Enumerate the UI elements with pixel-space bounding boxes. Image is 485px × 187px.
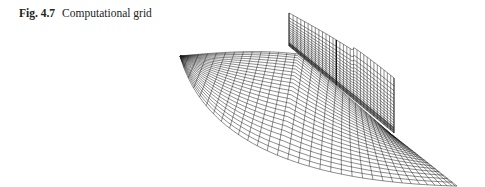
- floor-mesh: [180, 52, 457, 186]
- computational-grid-mesh: [0, 0, 485, 187]
- computational-grid-figure: [0, 0, 485, 187]
